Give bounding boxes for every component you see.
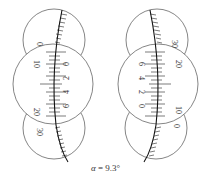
caption-equals: =	[96, 163, 106, 173]
right-bottom-label: 0	[172, 124, 181, 128]
right-main-label-6: 6	[137, 62, 146, 66]
left-main-label-4: 4	[62, 90, 71, 94]
caption-value: 9.3°	[105, 163, 120, 173]
right-main-label-20: 20	[174, 60, 183, 68]
right-main-label-0: 0	[137, 104, 146, 108]
right-main-label-4: 4	[137, 76, 146, 80]
left-top-label: 0	[35, 42, 44, 46]
figure-caption: α = 9.3°	[0, 163, 211, 173]
left-main-label-2: 2	[62, 76, 71, 80]
left-bottom-label: 30	[35, 128, 44, 136]
right-main-label-10: 10	[174, 106, 183, 114]
right-top-label: 30	[170, 40, 179, 48]
left-main-label-20: 20	[32, 108, 41, 116]
left-main-label-10: 10	[32, 60, 41, 68]
left-main-label-0: 0	[62, 62, 71, 66]
left-main-label-6: 6	[62, 104, 71, 108]
vernier-diagram: 0 10 20 0 2 4 6 30 30 6	[0, 0, 211, 182]
right-main-label-2: 2	[137, 90, 146, 94]
